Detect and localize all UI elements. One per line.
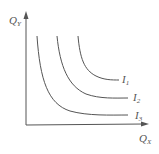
indifference-curve-diagram: QY QX I1 I2 I3 [0, 0, 159, 154]
y-axis-arrow-icon [24, 11, 29, 19]
y-axis-label: QY [9, 14, 22, 28]
curve-label-i2: I2 [132, 91, 141, 105]
indifference-curve-i2 [57, 36, 128, 98]
indifference-curve-i3 [37, 36, 128, 115]
x-axis-arrow-icon [141, 122, 149, 127]
x-axis [26, 124, 144, 125]
x-axis-label: QX [139, 132, 152, 146]
curve-label-i1: I1 [121, 73, 129, 87]
indifference-curve-i1 [78, 36, 119, 80]
curve-label-i3: I3 [134, 109, 143, 123]
